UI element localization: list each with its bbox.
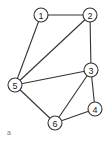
- graph-edges: [15, 15, 95, 123]
- node-label: 5: [12, 81, 17, 91]
- edge-2-3: [90, 15, 91, 70]
- node-label: 1: [38, 11, 43, 21]
- edge-2-5: [15, 15, 90, 85]
- node-2: 2: [83, 8, 97, 22]
- edge-5-6: [15, 85, 55, 123]
- edge-1-5: [15, 15, 41, 85]
- graph-diagram: 123456: [0, 0, 112, 141]
- node-label: 6: [52, 119, 57, 129]
- node-label: 3: [88, 66, 93, 76]
- node-label: 2: [87, 11, 92, 21]
- node-4: 4: [88, 102, 102, 116]
- node-label: 4: [92, 105, 97, 115]
- edge-3-6: [55, 70, 91, 123]
- node-5: 5: [8, 78, 22, 92]
- node-6: 6: [48, 116, 62, 130]
- node-3: 3: [84, 63, 98, 77]
- node-1: 1: [34, 8, 48, 22]
- edge-3-5: [15, 70, 91, 85]
- figure-caption: a: [7, 129, 11, 136]
